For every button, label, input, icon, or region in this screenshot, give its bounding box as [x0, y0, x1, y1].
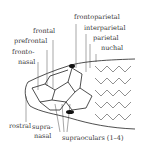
- label-parietal: parietal: [93, 35, 119, 42]
- label-prefrontal: prefrontal: [14, 38, 47, 45]
- label-supraoculars: supraoculars (1–4): [62, 135, 123, 142]
- label-supranasal-1: supra-: [32, 124, 53, 131]
- label-rostral: rostral: [9, 123, 31, 130]
- label-frontonasal-1: fronto-: [12, 49, 34, 56]
- label-supranasal-2: nasal: [34, 133, 51, 140]
- label-nuchal: nuchal: [101, 45, 123, 52]
- label-frontonasal-2: nasal: [18, 59, 35, 66]
- snake-head-drawing: [0, 0, 147, 153]
- label-frontal: frontal: [33, 28, 55, 35]
- label-frontoparietal: frontoparietal: [74, 14, 120, 21]
- label-interparietal: interparietal: [84, 25, 125, 32]
